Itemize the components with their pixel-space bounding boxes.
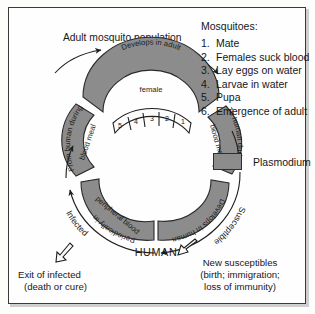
stage-number-4: 4 (134, 118, 138, 125)
list-item: 5. Pupa (201, 91, 309, 105)
list-item-number: 3. (201, 64, 216, 78)
list-item-label: Emergence of adult (216, 105, 309, 119)
list-item-number: 2. (201, 51, 216, 65)
new-susceptibles-line1: New susceptibles (203, 257, 278, 268)
list-item: 2. Females suck blood (201, 51, 309, 65)
stage-number-5: 5 (118, 122, 122, 129)
exit-note-line1: Exit of infected (18, 269, 81, 280)
list-item-label: Mate (216, 37, 309, 51)
list-item-label: Lay eggs on water (216, 64, 309, 78)
list-item: 6. Emergence of adult (201, 105, 309, 119)
list-item-label: Females suck blood (216, 51, 309, 65)
stage-number-2: 2 (165, 115, 169, 122)
mosquito-stages-list: 1. Mate 2. Females suck blood 3. Lay egg… (201, 37, 309, 119)
mosquito-stages-panel: Mosquitoes: 1. Mate 2. Females suck bloo… (201, 20, 309, 119)
list-item: 4. Larvae in water (201, 78, 309, 92)
list-item-number: 1. (201, 37, 216, 51)
label-infected: Infected (64, 209, 90, 238)
list-item-label: Pupa (216, 91, 309, 105)
label-develops-in-adult-female-line2: female (140, 85, 163, 94)
list-item: 1. Mate (201, 37, 309, 51)
human-label: HUMAN (135, 246, 178, 258)
stage-number-3: 3 (150, 115, 154, 122)
plasmodium-legend: Plasmodium (213, 153, 311, 170)
list-item-number: 6. (201, 105, 216, 119)
malaria-cycle-figure: Adult mosquito population 5 4 3 2 1 Deve… (0, 0, 315, 314)
list-item-number: 5. (201, 91, 216, 105)
segment-develops-in-adult-female (83, 37, 219, 112)
list-item-number: 4. (201, 78, 216, 92)
exit-note-line2: (death or cure) (24, 281, 87, 292)
plasmodium-swatch (213, 153, 242, 170)
plasmodium-label: Plasmodium (253, 156, 311, 168)
mosquito-stages-heading: Mosquitoes: (201, 20, 309, 33)
list-item-label: Larvae in water (216, 78, 309, 92)
new-susceptibles-line2: (birth; immigration; (200, 269, 279, 280)
new-susceptibles-line3: loss of immunity) (204, 281, 276, 292)
stage-number-1: 1 (181, 118, 185, 125)
exit-arrow-icon (56, 243, 73, 262)
list-item: 3. Lay eggs on water (201, 64, 309, 78)
